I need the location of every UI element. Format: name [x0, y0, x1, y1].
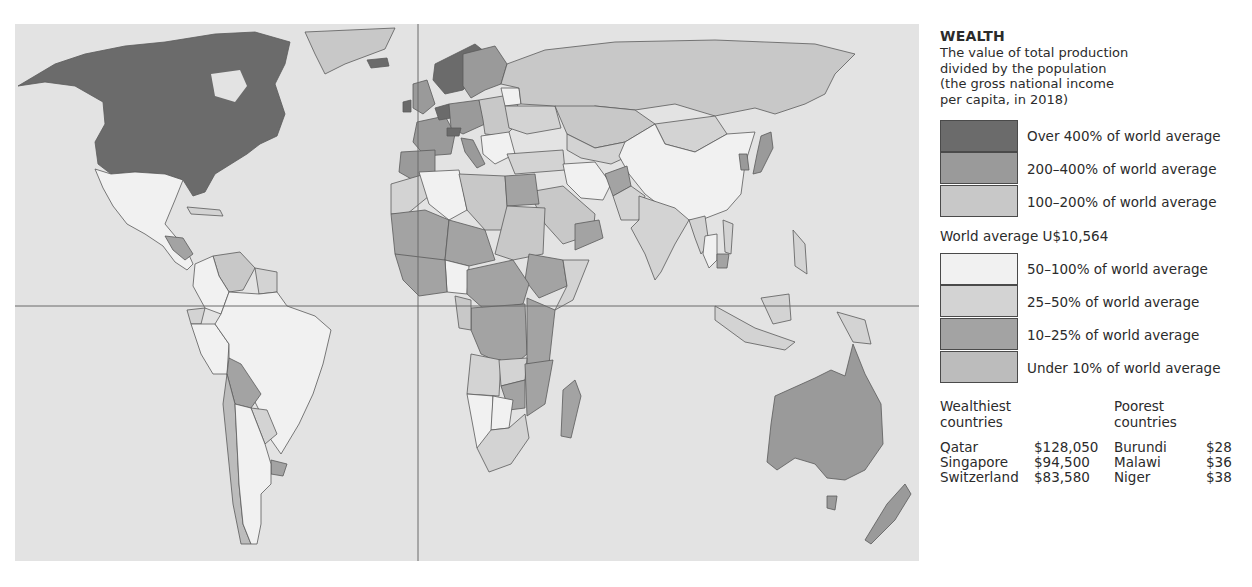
legend-swatch-200-400 — [940, 152, 1018, 184]
poorest-country: Malawi — [1114, 455, 1206, 470]
legend-item: Under 10% of world average — [940, 351, 1252, 384]
region-vietnam — [723, 220, 733, 254]
poorest-country: Burundi — [1114, 440, 1206, 455]
region-ireland — [403, 100, 411, 112]
region-tasmania — [827, 496, 837, 510]
legend-description-line: divided by the population — [940, 61, 1252, 77]
poorest-names-column: Poorest countries Burundi Malawi Niger — [1114, 398, 1206, 485]
legend-item: 100–200% of world average — [940, 185, 1252, 218]
region-switzerland — [447, 128, 461, 136]
wealthiest-country: Singapore — [940, 455, 1034, 470]
legend-label: 25–50% of world average — [1027, 294, 1199, 310]
wealthiest-names-column: Wealthiest countries Qatar Singapore Swi… — [940, 398, 1034, 485]
poorest-country: Niger — [1114, 470, 1206, 485]
map-svg — [15, 24, 919, 561]
country-tables: Wealthiest countries Qatar Singapore Swi… — [940, 398, 1252, 485]
region-uk — [413, 80, 435, 114]
region-egypt — [505, 174, 539, 206]
region-mozambique — [525, 360, 553, 416]
wealthiest-country: Qatar — [940, 440, 1034, 455]
region-ecuador — [187, 308, 205, 324]
wealthiest-values-column: $128,050 $94,500 $83,580 — [1034, 398, 1114, 485]
region-oman-yemen — [575, 220, 603, 250]
region-borneo — [761, 294, 791, 324]
legend-swatch-50-100 — [940, 253, 1018, 285]
region-iceland — [367, 58, 389, 68]
region-russia — [501, 40, 855, 116]
region-uruguay — [271, 460, 287, 476]
region-korea — [739, 154, 749, 170]
region-madagascar — [561, 380, 581, 438]
region-new-zealand — [865, 484, 911, 544]
region-north-america — [18, 32, 290, 196]
poorest-value: $28 — [1206, 440, 1232, 455]
region-angola — [467, 354, 501, 396]
region-central-africa — [467, 260, 529, 310]
poorest-heading-line: Poorest — [1114, 398, 1206, 414]
legend-description-line: per capita, in 2018) — [940, 92, 1252, 108]
wealthiest-heading: Wealthiest countries — [940, 398, 1034, 430]
world-map — [15, 24, 919, 561]
region-west-coast — [395, 254, 447, 296]
poorest-value: $36 — [1206, 455, 1232, 470]
wealthiest-heading-line: countries — [940, 414, 1034, 430]
legend-item: 50–100% of world average — [940, 252, 1252, 285]
legend-label: Over 400% of world average — [1027, 128, 1221, 144]
legend-item: Over 400% of world average — [940, 119, 1252, 152]
region-belarus-ukraine — [501, 88, 521, 106]
wealthiest-value: $128,050 — [1034, 440, 1114, 455]
legend: WEALTH The value of total production div… — [940, 28, 1252, 485]
legend-label: 10–25% of world average — [1027, 327, 1199, 343]
poorest-heading-line: countries — [1114, 414, 1206, 430]
region-philippines — [793, 230, 807, 274]
legend-item: 25–50% of world average — [940, 285, 1252, 318]
legend-swatch-25-50 — [940, 285, 1018, 317]
region-australia — [767, 344, 883, 480]
legend-description-line: (the gross national income — [940, 76, 1252, 92]
region-libya — [459, 174, 509, 230]
legend-label: Under 10% of world average — [1027, 360, 1220, 376]
wealthiest-value: $94,500 — [1034, 455, 1114, 470]
legend-lower-categories: 50–100% of world average 25–50% of world… — [940, 252, 1252, 384]
legend-title: WEALTH — [940, 28, 1252, 45]
region-ethiopia — [525, 254, 567, 298]
region-east-africa — [527, 298, 555, 364]
legend-swatch-10-25 — [940, 318, 1018, 350]
legend-label: 50–100% of world average — [1027, 261, 1208, 277]
region-sweden-finland — [463, 46, 507, 98]
poorest-value: $38 — [1206, 470, 1232, 485]
legend-swatch-over-400 — [940, 120, 1018, 152]
wealthiest-value: $83,580 — [1034, 470, 1114, 485]
region-turkey — [507, 150, 565, 174]
region-guianas — [255, 268, 277, 294]
legend-swatch-under-10 — [940, 351, 1018, 383]
legend-item: 200–400% of world average — [940, 152, 1252, 185]
legend-description-line: The value of total production — [940, 45, 1252, 61]
region-png — [837, 312, 871, 344]
region-japan — [753, 132, 773, 174]
region-nigeria — [445, 260, 469, 294]
legend-label: 100–200% of world average — [1027, 194, 1216, 210]
wealthiest-heading-line: Wealthiest — [940, 398, 1034, 414]
wealthiest-country: Switzerland — [940, 470, 1034, 485]
poorest-heading: Poorest countries — [1114, 398, 1206, 430]
legend-upper-categories: Over 400% of world average 200–400% of w… — [940, 119, 1252, 218]
region-gabon — [455, 296, 471, 330]
region-ukraine — [505, 106, 561, 134]
legend-label: 200–400% of world average — [1027, 161, 1216, 177]
region-cambodia — [717, 254, 729, 268]
world-average-label: World average U$10,564 — [940, 228, 1252, 244]
region-botswana — [491, 396, 513, 430]
legend-swatch-100-200 — [940, 185, 1018, 217]
poorest-values-column: $28 $36 $38 — [1206, 398, 1232, 485]
legend-item: 10–25% of world average — [940, 318, 1252, 351]
region-thailand — [703, 234, 717, 268]
